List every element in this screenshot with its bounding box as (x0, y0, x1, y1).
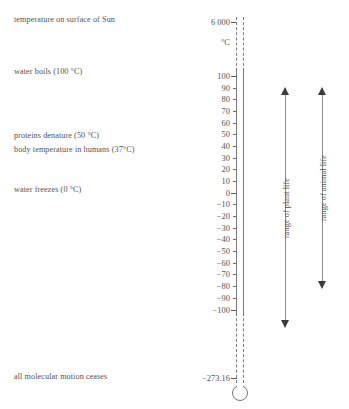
scale-label-minus60: −60 (176, 259, 230, 268)
scale-label-60: 60 (176, 119, 230, 128)
annotation-label-water-freezes: water freezes (0 °C) (14, 185, 81, 195)
scale-label-minus80: −80 (176, 282, 230, 291)
scale-label-50: 50 (176, 130, 230, 139)
scale-unit-label: °C (176, 38, 230, 47)
scale-label-30: 30 (176, 154, 230, 163)
temperature-scale-figure: temperature on surface of Sun water boil… (0, 0, 349, 409)
arrow-head-down-icon (318, 281, 326, 289)
scale-label-minus10: −10 (176, 200, 230, 209)
annotation-label-absolute-zero: all molecular motion ceases (14, 372, 107, 382)
arrow-head-up-icon (318, 87, 326, 95)
annotation-label-proteins-denature: proteins denature (50 °C) (14, 131, 99, 141)
scale-label-minus40: −40 (176, 235, 230, 244)
scale-label-minus50: −50 (176, 247, 230, 256)
scale-label-10: 10 (176, 177, 230, 186)
scale-label-100: 100 (176, 72, 230, 81)
thermometer-bulb (232, 385, 248, 401)
scale-label-absolute-zero: −273.16 (176, 374, 230, 383)
thermometer-tube-left-dashed-bottom (236, 313, 237, 383)
scale-label-minus100: −100 (176, 306, 230, 315)
scale-label-90: 90 (176, 84, 230, 93)
annotation-label-sun: temperature on surface of Sun (14, 15, 115, 25)
annotation-label-body-temperature: body temperature in humans (37°C) (14, 145, 135, 155)
thermometer-tube-right (243, 71, 244, 313)
arrow-head-down-icon (281, 320, 289, 328)
thermometer-tube-left-dashed-top (236, 17, 237, 71)
annotation-label-water-boils: water boils (100 °C) (14, 67, 82, 77)
range-arrow-plant-life-label: range of plant life (282, 178, 291, 238)
scale-label-minus20: −20 (176, 212, 230, 221)
scale-label-70: 70 (176, 107, 230, 116)
range-arrow-animal-life: range of animal life (316, 88, 330, 288)
thermometer-bulb-neck-mask (237, 384, 243, 387)
scale-label-minus30: −30 (176, 224, 230, 233)
thermometer-tube-right-dashed-bottom (243, 313, 244, 383)
thermometer-tube-left (236, 71, 237, 313)
scale-label-20: 20 (176, 165, 230, 174)
scale-label-minus70: −70 (176, 270, 230, 279)
scale-label-80: 80 (176, 95, 230, 104)
range-arrow-plant-life: range of plant life (279, 88, 293, 327)
scale-label-40: 40 (176, 142, 230, 151)
arrow-head-up-icon (281, 87, 289, 95)
scale-label-6000: 6 000 (176, 18, 230, 27)
range-arrow-animal-life-label: range of animal life (319, 155, 328, 221)
scale-label-minus90: −90 (176, 294, 230, 303)
scale-label-0: 0 (176, 189, 230, 198)
thermometer-tube-right-dashed-top (243, 17, 244, 71)
